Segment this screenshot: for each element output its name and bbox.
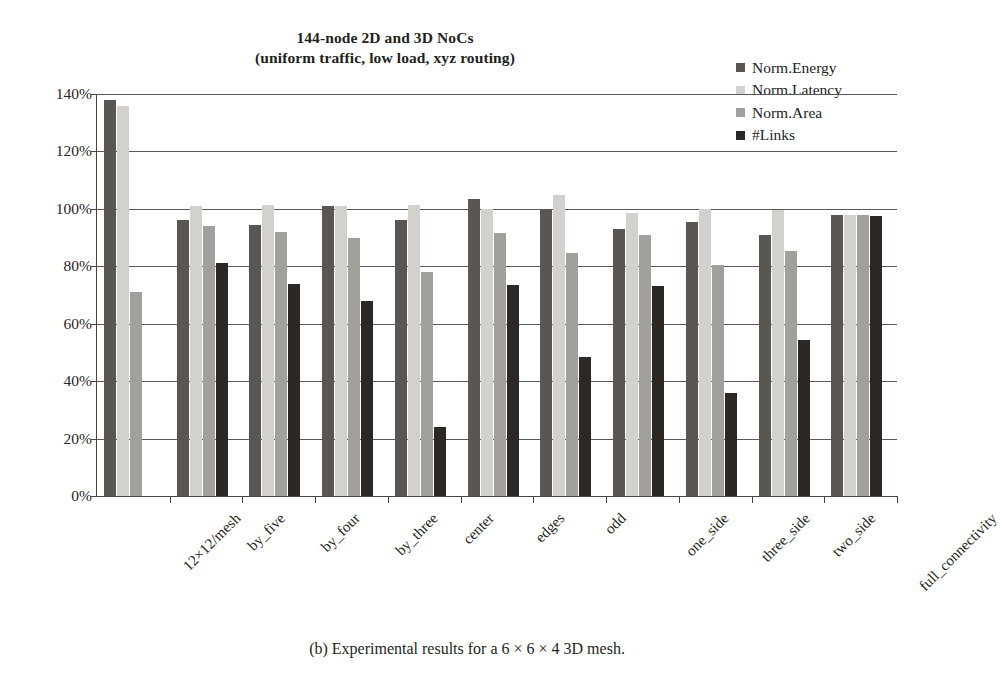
bar xyxy=(613,229,625,496)
x-axis-tick-mark xyxy=(170,496,171,503)
bar-group xyxy=(177,94,229,496)
bar xyxy=(699,209,711,496)
bar-group xyxy=(104,94,156,496)
x-axis-category-label: center xyxy=(460,510,498,548)
bar-group xyxy=(468,94,520,496)
bar xyxy=(322,206,334,496)
y-axis-tick-label: 0% xyxy=(71,487,92,505)
bar xyxy=(831,215,843,496)
bar-group xyxy=(395,94,447,496)
x-axis-category-label: by_four xyxy=(318,510,364,556)
bar xyxy=(395,220,407,496)
bar xyxy=(288,284,300,496)
y-axis-tick-label: 140% xyxy=(56,85,92,103)
bar xyxy=(203,226,215,496)
bar xyxy=(540,209,552,496)
x-axis-category-label: full_connectivity xyxy=(916,510,1000,594)
y-axis-tick-label: 60% xyxy=(64,315,92,333)
bar xyxy=(844,215,856,496)
y-axis-labels: 0%20%40%60%80%100%120%140% xyxy=(36,88,92,496)
x-axis-tick-mark xyxy=(388,496,389,503)
bar xyxy=(725,393,737,496)
bar xyxy=(870,216,882,496)
x-axis-tick-mark xyxy=(679,496,680,503)
bar xyxy=(348,238,360,496)
bar xyxy=(190,206,202,496)
bar xyxy=(759,235,771,496)
bar xyxy=(712,265,724,496)
chart-subtitle: (uniform traffic, low load, xyz routing) xyxy=(150,48,620,68)
bar xyxy=(772,210,784,496)
legend-square-swatch xyxy=(736,63,745,72)
bar xyxy=(652,286,664,496)
legend-item: Norm.Energy xyxy=(736,58,842,77)
bar xyxy=(262,205,274,496)
bar-group xyxy=(759,94,811,496)
bar xyxy=(275,232,287,496)
bar-group xyxy=(686,94,738,496)
bar-group xyxy=(613,94,665,496)
chart-title: 144-node 2D and 3D NoCs (uniform traffic… xyxy=(150,28,620,69)
x-axis-category-label: three_side xyxy=(758,510,814,566)
x-axis-category-label: one_side xyxy=(683,510,733,560)
x-axis-tick-mark xyxy=(315,496,316,503)
bar xyxy=(177,220,189,496)
bar-group xyxy=(249,94,301,496)
bar-group xyxy=(322,94,374,496)
bar xyxy=(468,199,480,496)
bar-group xyxy=(831,94,883,496)
x-axis-category-label: edges xyxy=(532,510,568,546)
bar xyxy=(553,195,565,497)
bar xyxy=(566,253,578,496)
bar xyxy=(408,205,420,496)
figure-caption: (b) Experimental results for a 6 × 6 × 4… xyxy=(0,640,934,658)
bar xyxy=(785,251,797,497)
bar xyxy=(507,285,519,496)
bar xyxy=(421,272,433,496)
y-axis-tick-label: 120% xyxy=(56,142,92,160)
bar xyxy=(361,301,373,496)
bar xyxy=(626,213,638,496)
y-axis-tick-label: 40% xyxy=(64,372,92,390)
x-axis-category-label: odd xyxy=(601,510,629,538)
bar xyxy=(117,106,129,497)
bar xyxy=(579,357,591,496)
x-axis-tick-mark xyxy=(461,496,462,503)
bar xyxy=(481,209,493,496)
bar xyxy=(249,225,261,496)
bar xyxy=(857,215,869,496)
y-axis-tick-label: 80% xyxy=(64,257,92,275)
x-axis-tick-mark xyxy=(824,496,825,503)
x-axis-tick-mark xyxy=(242,496,243,503)
bar xyxy=(434,427,446,496)
y-axis-tick-mark xyxy=(91,496,97,497)
x-axis-tick-mark xyxy=(606,496,607,503)
y-axis-tick-label: 20% xyxy=(64,430,92,448)
bar xyxy=(104,100,116,496)
x-axis-category-label: by_five xyxy=(245,510,289,554)
bar xyxy=(130,292,142,496)
bar xyxy=(686,222,698,496)
chart-title-line-1: 144-node 2D and 3D NoCs xyxy=(150,28,620,48)
legend-item-label: Norm.Energy xyxy=(752,60,837,76)
bar xyxy=(494,233,506,496)
bar-group xyxy=(540,94,592,496)
y-axis-tick-label: 100% xyxy=(56,200,92,218)
x-axis-tick-mark xyxy=(752,496,753,503)
x-axis-tick-mark xyxy=(533,496,534,503)
bar xyxy=(216,263,228,496)
x-axis-category-label: by_three xyxy=(392,510,441,559)
bar xyxy=(798,340,810,496)
bar xyxy=(639,235,651,496)
x-axis-tick-mark xyxy=(897,496,898,503)
bar xyxy=(335,206,347,496)
x-axis-category-label: 12×12/mesh xyxy=(180,510,245,575)
plot-area xyxy=(96,94,897,497)
x-axis-category-label: two_side xyxy=(829,510,879,560)
